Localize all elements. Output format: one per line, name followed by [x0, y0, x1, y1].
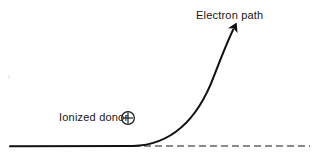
electron-trajectory-curve — [133, 30, 233, 146]
electron-path-diagram: Electron path Ionized donor — [0, 0, 316, 157]
electron-path-label: Electron path — [196, 9, 263, 22]
diagram-canvas — [0, 0, 316, 157]
ionized-donor-label: Ionized donor — [59, 111, 128, 124]
scan-artifact — [8, 75, 10, 79]
